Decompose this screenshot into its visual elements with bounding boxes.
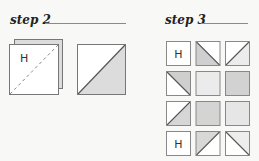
tile-r1c3 [226,42,250,66]
tile-r4c1: H [167,132,191,156]
quilt-diagram: H HH [0,0,259,161]
tile-r2c1 [167,72,191,96]
half-square-triangle [78,45,126,95]
tile-r1c1: H [167,42,191,66]
tile-r2c3 [226,72,250,96]
tile-grid: HH [167,42,250,156]
tile-r2c2 [196,72,220,96]
tile-label-h: H [174,138,182,151]
tile-r3c3 [226,102,250,126]
tile-r1c2 [196,42,220,66]
tile-r3c2 [196,102,220,126]
tile-r3c1 [167,102,191,126]
tile-r4c3 [226,132,250,156]
square-label-h: H [20,52,28,65]
tile-label-h: H [174,48,182,61]
tile-r4c2 [196,132,220,156]
stacked-squares: H [10,40,63,95]
